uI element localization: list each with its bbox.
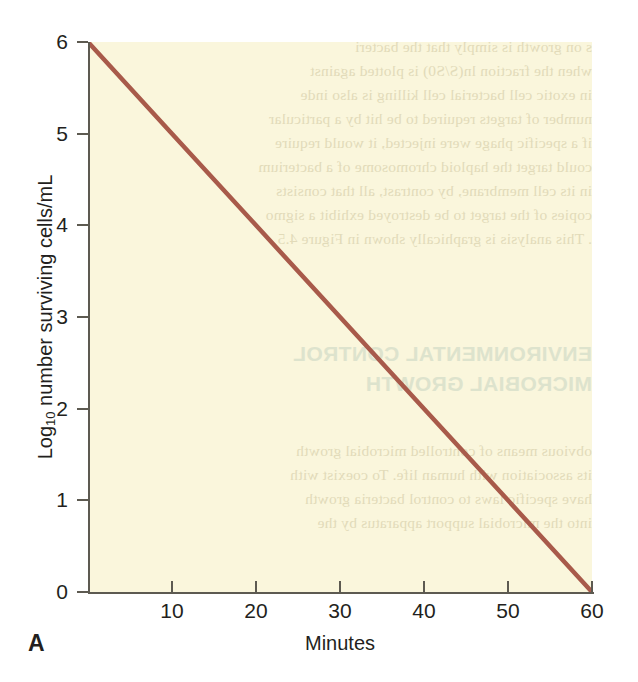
x-tick-label: 30 bbox=[310, 600, 370, 621]
x-tick bbox=[255, 581, 257, 592]
y-tick bbox=[77, 408, 88, 410]
panel-label: A bbox=[28, 630, 45, 657]
y-axis-title: Log10 number surviving cells/mL bbox=[30, 42, 60, 592]
x-tick bbox=[339, 581, 341, 592]
series-line-surviving-cells bbox=[88, 42, 592, 592]
plot-area: s on growth is simply that the bacteri w… bbox=[88, 42, 592, 592]
y-axis-title-subscript: 10 bbox=[43, 411, 58, 425]
x-axis-line bbox=[88, 592, 594, 594]
x-tick-label: 20 bbox=[226, 600, 286, 621]
y-tick bbox=[77, 316, 88, 318]
y-axis-title-base: Log bbox=[34, 426, 56, 459]
x-tick-label: 10 bbox=[142, 600, 202, 621]
y-tick bbox=[77, 133, 88, 135]
x-axis-title: Minutes bbox=[88, 632, 592, 655]
x-tick bbox=[591, 581, 593, 592]
figure-panel-a: s on growth is simply that the bacteri w… bbox=[0, 0, 638, 682]
x-tick-label: 60 bbox=[562, 600, 622, 621]
y-axis-title-rest: number surviving cells/mL bbox=[34, 175, 56, 412]
y-tick bbox=[77, 41, 88, 43]
y-tick bbox=[77, 224, 88, 226]
x-tick bbox=[171, 581, 173, 592]
x-tick-label: 50 bbox=[478, 600, 538, 621]
y-tick bbox=[77, 499, 88, 501]
y-tick bbox=[77, 591, 88, 593]
y-axis-line bbox=[88, 42, 90, 594]
x-tick bbox=[423, 581, 425, 592]
x-tick bbox=[507, 581, 509, 592]
x-tick-label: 40 bbox=[394, 600, 454, 621]
